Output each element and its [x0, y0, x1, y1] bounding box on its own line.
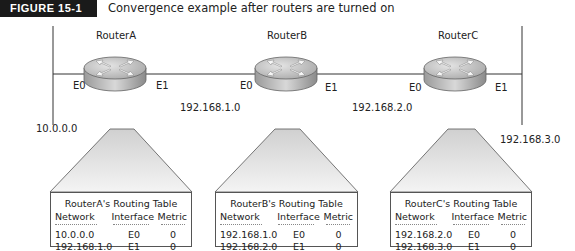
- table-row: 192.168.3.0 E1 0: [391, 241, 531, 251]
- router-c-label: RouterC: [438, 30, 478, 41]
- table-row: 10.0.0.0 E0 0: [51, 229, 191, 240]
- table-row: 192.168.1.0 E1 0: [51, 241, 191, 251]
- header-network: Network: [220, 211, 274, 222]
- router-b-e0: E0: [240, 80, 253, 91]
- header-metric: Metric: [497, 211, 527, 222]
- routing-table-b: RouterB's Routing Table Network Interfac…: [215, 192, 358, 247]
- router-b-e1: E1: [325, 82, 338, 93]
- table-row: 192.168.2.0 E0 0: [391, 229, 531, 240]
- router-b-icon: [255, 57, 317, 91]
- router-c-icon: [424, 57, 486, 91]
- table-row: 192.168.2.0 E1 0: [216, 241, 357, 251]
- network-label-left: 10.0.0.0: [36, 123, 77, 134]
- table-title: RouterB's Routing Table: [216, 198, 357, 209]
- header-metric: Metric: [323, 211, 353, 222]
- table-title: RouterA's Routing Table: [51, 198, 191, 209]
- routing-table-c: RouterC's Routing Table Network Interfac…: [390, 192, 532, 247]
- router-a-icon: [84, 57, 146, 91]
- table-connector-b: [215, 129, 358, 192]
- router-a-e0: E0: [73, 80, 86, 91]
- header-network: Network: [395, 211, 448, 222]
- router-c-e0: E0: [409, 82, 422, 93]
- router-a-e1: E1: [156, 80, 169, 91]
- network-label-ab: 192.168.1.0: [180, 102, 240, 113]
- header-interface: Interface: [108, 211, 157, 222]
- table-row: 192.168.1.0 E0 0: [216, 229, 357, 240]
- table-title: RouterC's Routing Table: [391, 198, 531, 209]
- network-label-bc: 192.168.2.0: [352, 102, 412, 113]
- header-interface: Interface: [274, 211, 324, 222]
- routing-table-a: RouterA's Routing Table Network Interfac…: [50, 192, 192, 247]
- header-network: Network: [55, 211, 108, 222]
- router-a-label: RouterA: [96, 30, 136, 41]
- header-metric: Metric: [157, 211, 187, 222]
- network-label-right: 192.168.3.0: [500, 134, 560, 145]
- table-connector-a: [50, 129, 192, 192]
- router-b-label: RouterB: [267, 30, 307, 41]
- header-interface: Interface: [448, 211, 497, 222]
- router-c-e1: E1: [495, 82, 508, 93]
